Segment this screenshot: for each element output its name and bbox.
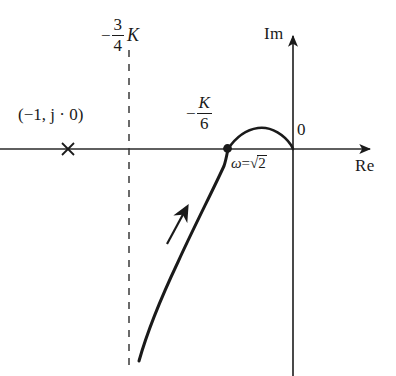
crossing-numerator: K (197, 94, 212, 112)
crossing-fraction: K6 (197, 94, 212, 133)
asymptote-denominator: 4 (112, 37, 125, 55)
crossing-value-label: −K6 (186, 95, 212, 134)
radicand-value: 2 (257, 155, 267, 171)
nyquist-curve-upper-arc (228, 128, 293, 149)
asymptote-gain-symbol: K (127, 26, 139, 44)
crossing-denominator: 6 (197, 115, 212, 133)
origin-label: 0 (297, 121, 306, 138)
real-axis-label: Re (355, 157, 374, 174)
imaginary-axis-label: Im (264, 25, 283, 42)
omega-equals-sign: = (242, 155, 250, 171)
asymptote-value-label: −34K (101, 17, 139, 56)
asymptote-minus-sign: − (101, 27, 111, 44)
omega-symbol: ω (231, 155, 242, 171)
critical-point-label: (−1, j · 0) (18, 106, 83, 123)
asymptote-numerator: 3 (112, 16, 125, 34)
crossing-minus-sign: − (186, 105, 196, 122)
nyquist-figure: −34K −K6 (−1, j · 0) Im Re 0 ω=√2 (0, 0, 396, 376)
axis-crossing-dot (223, 144, 232, 153)
curve-direction-arrow-icon (167, 207, 187, 244)
nyquist-plot-svg (0, 0, 396, 376)
asymptote-fraction: 34 (112, 16, 125, 55)
square-root-group: √2 (250, 154, 267, 171)
nyquist-curve-lower-branch (139, 149, 228, 361)
frequency-annotation-label: ω=√2 (231, 154, 267, 171)
